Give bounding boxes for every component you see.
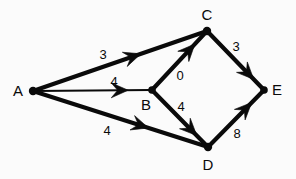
- graph-node-d[interactable]: [204, 143, 212, 151]
- graph-edge-a-b: [34, 90, 150, 91]
- arrowhead-icon-a-d: [130, 116, 151, 135]
- weighted-directed-graph-figure: ABCDE3440438: [0, 0, 296, 179]
- edge-weight-a-b: 4: [110, 75, 117, 88]
- node-label-a: A: [13, 83, 23, 98]
- graph-node-b[interactable]: [148, 86, 156, 94]
- graph-node-a[interactable]: [29, 87, 37, 95]
- node-label-c: C: [202, 7, 213, 22]
- edge-weight-a-c: 3: [99, 48, 106, 61]
- edge-weight-b-d: 4: [177, 100, 184, 113]
- graph-node-e[interactable]: [260, 86, 268, 94]
- edge-weight-a-d: 4: [103, 124, 110, 137]
- graph-node-c[interactable]: [203, 27, 211, 35]
- edge-weight-b-c: 0: [176, 69, 183, 82]
- node-label-e: E: [272, 82, 282, 97]
- arrowhead-icon-a-c: [122, 47, 143, 67]
- node-label-d: D: [203, 157, 214, 172]
- node-label-b: B: [141, 97, 151, 112]
- edge-weight-d-e: 8: [233, 127, 240, 140]
- graph-canvas: [0, 0, 296, 179]
- edge-weight-c-e: 3: [232, 40, 239, 53]
